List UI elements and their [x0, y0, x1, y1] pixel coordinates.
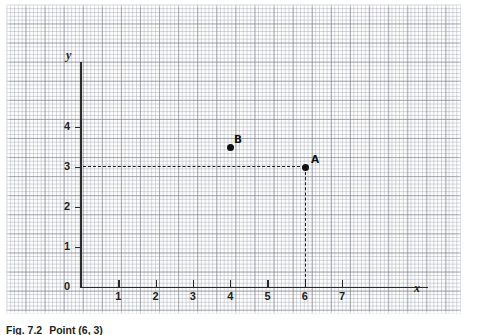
x-tick-label: 2 — [146, 290, 166, 302]
y-tick-label: 1 — [52, 240, 70, 252]
y-tick-label: 2 — [52, 200, 70, 212]
vertical-dashed-guide-line — [305, 167, 306, 287]
y-tick-mark — [75, 167, 82, 168]
x-tick-mark — [118, 280, 119, 287]
y-tick-mark — [75, 127, 82, 128]
paper-edge-fade-left — [0, 0, 10, 332]
plot-point-b — [227, 144, 234, 151]
x-tick-mark — [193, 280, 194, 287]
graph-paper-grid — [6, 4, 461, 318]
plot-point-a-label: A — [311, 153, 319, 165]
x-tick-label: 3 — [183, 290, 203, 302]
x-tick-mark — [230, 280, 231, 287]
y-tick-label: 4 — [52, 120, 70, 132]
figure-caption-text: Point (6, 3) — [49, 324, 103, 335]
x-tick-mark — [156, 280, 157, 287]
x-tick-label: 4 — [220, 290, 240, 302]
figure-caption-number: Fig. 7.2 — [6, 324, 42, 335]
plot-point-b-label: B — [234, 133, 242, 145]
x-tick-label: 5 — [257, 290, 277, 302]
origin-label: 0 — [52, 280, 70, 292]
y-tick-mark — [75, 247, 82, 248]
x-axis-label: x — [414, 281, 420, 296]
x-tick-mark — [342, 280, 343, 287]
y-tick-label: 3 — [52, 160, 70, 172]
y-tick-mark — [75, 207, 82, 208]
y-axis-line — [80, 62, 82, 288]
paper-edge-fade-bottom — [0, 310, 477, 318]
paper-edge-fade-right — [457, 0, 477, 332]
x-tick-label: 7 — [332, 290, 352, 302]
x-tick-label: 1 — [108, 290, 128, 302]
x-axis-line — [80, 287, 428, 289]
horizontal-dashed-guide-line — [83, 166, 305, 167]
figure-caption: Fig. 7.2Point (6, 3) — [6, 324, 103, 335]
y-axis-label: y — [66, 48, 71, 63]
x-tick-mark — [267, 280, 268, 287]
paper-edge-fade-top — [0, 0, 477, 8]
x-tick-label: 6 — [295, 290, 315, 302]
plot-point-a — [302, 164, 309, 171]
